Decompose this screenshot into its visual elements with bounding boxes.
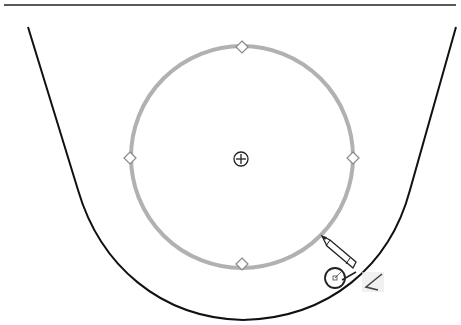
center-point-icon[interactable] — [234, 152, 248, 166]
inference-arrow-icon — [362, 272, 384, 292]
handle-top-icon[interactable] — [236, 41, 248, 53]
circle-pencil-icon — [322, 236, 356, 268]
sketch-u-profile[interactable] — [28, 27, 456, 320]
sketch-canvas[interactable] — [0, 0, 461, 325]
handle-left-icon[interactable] — [124, 152, 136, 164]
tangent-relation-icon — [325, 268, 356, 288]
handle-right-icon[interactable] — [347, 152, 359, 164]
